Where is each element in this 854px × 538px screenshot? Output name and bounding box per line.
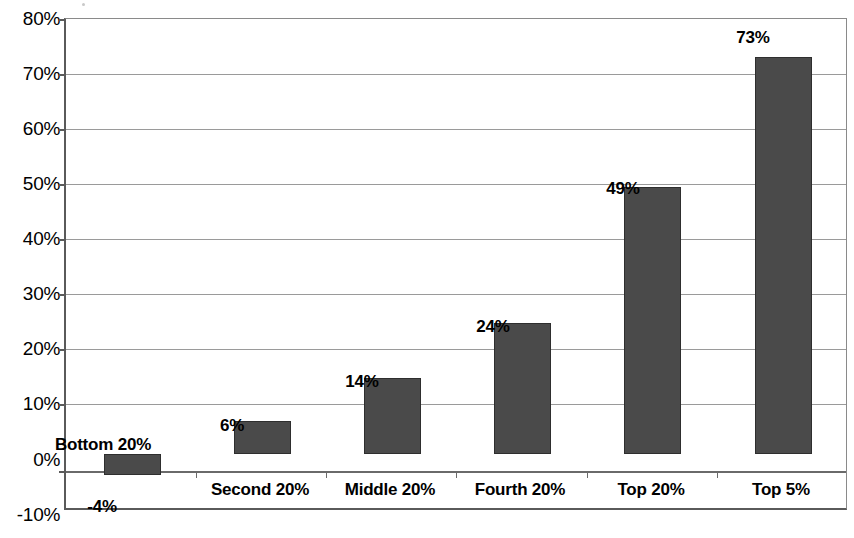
y-axis-tick-label-30: 30% — [2, 284, 60, 303]
x-axis-label-top-20: Top 20% — [585, 481, 717, 498]
y-axis-tick-label-50: 50% — [2, 174, 60, 193]
x-tickmark-3 — [456, 471, 457, 478]
x-axis-label-second-20: Second 20% — [194, 481, 326, 498]
scan-artifact — [82, 3, 85, 6]
x-tickmark-1 — [196, 471, 197, 478]
value-label-middle-20: 14% — [332, 373, 392, 390]
value-label-fourth-20: 24% — [463, 318, 523, 335]
gridline-20 — [66, 349, 846, 350]
y-axis-tick-label-40: 40% — [2, 229, 60, 248]
bar-fourth-20[interactable] — [494, 323, 551, 453]
gridline-60 — [66, 129, 846, 130]
value-label-second-20: 6% — [202, 417, 262, 434]
y-tickmark-10 — [59, 404, 66, 406]
x-axis-label-bottom-20: Bottom 20% — [37, 436, 169, 453]
y-axis-tick-label-70: 70% — [2, 64, 60, 83]
y-tickmark-60 — [59, 129, 66, 131]
y-axis-tick-label-20: 20% — [2, 339, 60, 358]
y-axis-tick-label-80: 80% — [2, 9, 60, 28]
y-tickmark-30 — [59, 294, 66, 296]
value-label-bottom-20: -4% — [72, 498, 132, 515]
value-label-top-20: 49% — [593, 180, 653, 197]
bar-chart: 80% 70% 60% 50% 40% 30% 20% 10% 0% -10% — [0, 0, 854, 538]
y-tickmark-70 — [59, 74, 66, 76]
gridline-40 — [66, 239, 846, 240]
y-tickmark-50 — [59, 184, 66, 186]
y-axis-tick-label-minus10: -10% — [2, 505, 60, 524]
x-axis-label-fourth-20: Fourth 20% — [454, 481, 586, 498]
x-axis-label-middle-20: Middle 20% — [324, 481, 456, 498]
gridline-70 — [66, 74, 846, 75]
x-tickmark-4 — [587, 471, 588, 478]
gridline-50 — [66, 184, 846, 185]
y-tickmark-20 — [59, 349, 66, 351]
gridline-30 — [66, 294, 846, 295]
y-axis-tick-label-10: 10% — [2, 394, 60, 413]
y-axis-tick-label-60: 60% — [2, 119, 60, 138]
bar-top-20[interactable] — [624, 187, 681, 453]
x-axis-label-top-5: Top 5% — [715, 481, 847, 498]
plot-area — [64, 18, 847, 510]
x-tickmark-5 — [717, 471, 718, 478]
gridline-10 — [66, 404, 846, 405]
bar-bottom-20[interactable] — [104, 454, 161, 476]
value-label-top-5: 73% — [723, 29, 783, 46]
y-tickmark-80 — [59, 19, 66, 21]
y-tickmark-0 — [59, 471, 66, 473]
x-tickmark-2 — [326, 471, 327, 478]
y-tickmark-40 — [59, 239, 66, 241]
bar-top-5[interactable] — [755, 57, 812, 454]
